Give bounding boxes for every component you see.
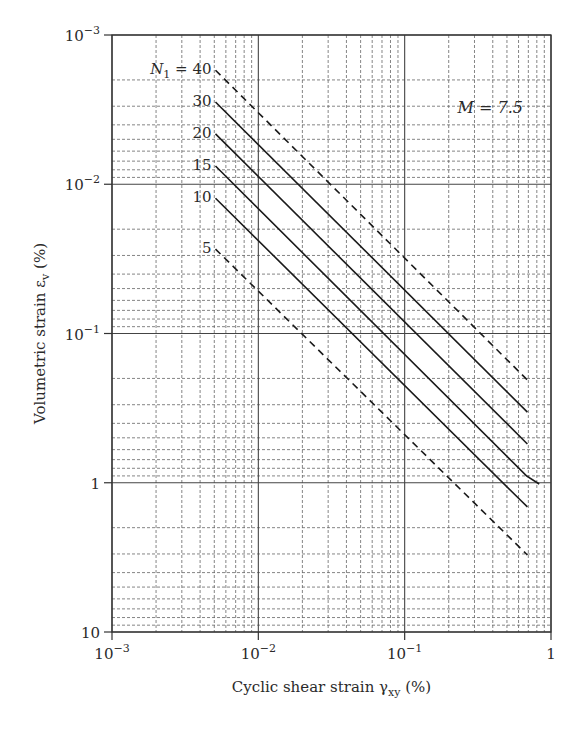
curve-n1-10	[216, 198, 528, 507]
curve-label-n1-30: 30	[192, 92, 211, 110]
curve-label-n1-15: 15	[192, 156, 211, 174]
y-tick-label: 10	[81, 624, 100, 642]
x-tick-label: 1	[546, 645, 556, 663]
curve-n1-30	[216, 102, 528, 412]
curve-label-n1-5: 5	[202, 239, 212, 257]
curve-n1-15	[216, 166, 540, 484]
x-tick-label: 10−2	[241, 642, 276, 663]
volumetric-strain-chart: N1 = 40302015105 10−310−210−11 10−310−21…	[0, 0, 585, 730]
y-tick-label: 10−3	[65, 24, 100, 45]
y-axis-title: Volumetric strain εv (%)	[31, 243, 52, 425]
curve-label-n1-10: 10	[192, 188, 211, 206]
magnitude-annotation: M = 7.5	[457, 98, 523, 117]
curve-label-n1-40: N1 = 40	[149, 60, 211, 81]
y-tick-label: 10−1	[65, 323, 100, 344]
x-tick-label: 10−3	[94, 642, 129, 663]
curve-labels: N1 = 40302015105	[149, 60, 211, 257]
y-tick-label: 1	[90, 475, 100, 493]
curve-label-n1-20: 20	[192, 124, 211, 142]
x-axis-title: Cyclic shear strain γxy (%)	[232, 678, 431, 699]
curve-n1-5	[216, 249, 528, 555]
x-tick-label: 10−1	[387, 642, 422, 663]
y-axis-ticks: 10−310−210−1110	[65, 24, 112, 642]
x-axis-ticks: 10−310−210−11	[94, 632, 555, 663]
y-tick-label: 10−2	[65, 173, 100, 194]
